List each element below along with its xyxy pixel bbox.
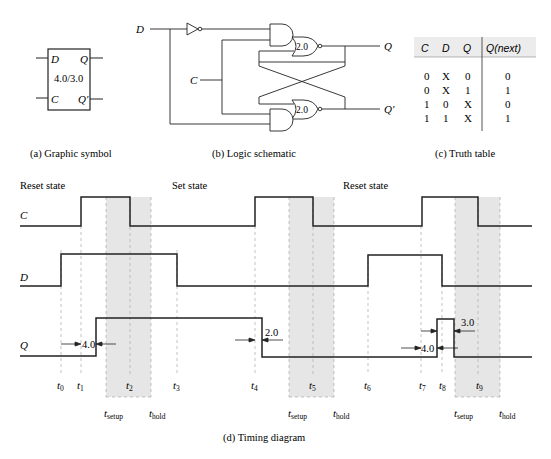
label-tsetup-3: tsetup — [454, 407, 473, 421]
svg-text:0: 0 — [443, 98, 449, 110]
marker-t3: t3 — [173, 379, 180, 393]
delay-label-4-0-first: 4.0 — [82, 339, 95, 350]
svg-text:0: 0 — [505, 98, 511, 110]
caption-b: (b) Logic schematic — [212, 148, 296, 160]
label-thold-1: thold — [149, 407, 166, 421]
marker-t8: t8 — [439, 379, 446, 393]
setup-hold-window-2 — [289, 197, 334, 397]
svg-text:0: 0 — [424, 70, 430, 82]
state-label-set: Set state — [172, 180, 208, 191]
tt-row: 1 0 X 0 — [424, 98, 511, 110]
svg-text:1: 1 — [465, 84, 471, 96]
caption-d: (d) Timing diagram — [223, 432, 305, 444]
schematic-input-c: C — [190, 74, 198, 86]
label-thold-2: thold — [333, 407, 350, 421]
setup-hold-window-1 — [106, 197, 151, 397]
tt-row: 1 1 X 1 — [424, 112, 511, 124]
logic-schematic — [150, 23, 380, 131]
graphic-symbol: D C Q Q′ 4.0/3.0 — [36, 49, 103, 110]
schematic-output-qbar: Q′ — [384, 103, 395, 115]
label-tsetup-1: tsetup — [104, 407, 123, 421]
svg-text:X: X — [464, 112, 472, 124]
delay-label-2-0: 2.0 — [265, 327, 278, 338]
label-tsetup-2: tsetup — [288, 407, 307, 421]
delay-label-4-0-second: 4.0 — [421, 343, 434, 354]
state-label-reset-1: Reset state — [20, 180, 66, 191]
marker-t1: t1 — [77, 379, 84, 393]
symbol-output-q: Q — [80, 53, 88, 65]
caption-a: (a) Graphic symbol — [30, 148, 112, 160]
tt-header-c: C — [421, 42, 429, 54]
marker-t7: t7 — [419, 379, 426, 393]
svg-text:1: 1 — [424, 98, 430, 110]
svg-text:1: 1 — [424, 112, 430, 124]
nor-bottom-delay: 2.0 — [296, 105, 308, 115]
marker-t6: t6 — [364, 379, 371, 393]
svg-text:X: X — [464, 98, 472, 110]
svg-text:1: 1 — [505, 84, 511, 96]
timing-diagram: 4.0 2.0 4.0 3.0 — [20, 197, 532, 397]
svg-text:0: 0 — [424, 84, 430, 96]
tt-row: 0 X 0 0 — [424, 70, 511, 82]
tt-header-q: Q — [463, 42, 471, 54]
truth-table: C D Q Q(next) 0 X 0 0 0 X 1 1 1 0 X 0 1 … — [414, 37, 536, 131]
svg-text:X: X — [442, 70, 450, 82]
svg-text:0: 0 — [465, 70, 471, 82]
schematic-input-d: D — [135, 23, 144, 35]
symbol-input-d: D — [50, 53, 59, 65]
figure-canvas: D C Q Q′ 4.0/3.0 (a) Graphic symbol — [0, 0, 551, 459]
setup-hold-labels: tsetup thold tsetup thold tsetup thold — [104, 407, 516, 421]
signal-label-d: D — [19, 271, 28, 283]
marker-t0: t0 — [57, 379, 64, 393]
svg-text:X: X — [442, 84, 450, 96]
delay-label-3-0: 3.0 — [461, 317, 474, 328]
and-gate-bottom — [270, 109, 293, 131]
signal-label-q: Q — [20, 339, 28, 351]
inverter-gate — [187, 23, 198, 35]
tt-header-qnext: Q(next) — [486, 42, 521, 54]
svg-text:1: 1 — [505, 112, 511, 124]
state-label-reset-2: Reset state — [343, 180, 389, 191]
caption-c: (c) Truth table — [435, 148, 495, 160]
tt-header-d: D — [442, 42, 450, 54]
symbol-output-qbar: Q′ — [78, 93, 89, 105]
signal-label-c: C — [20, 209, 28, 221]
setup-hold-window-3 — [455, 197, 500, 397]
svg-text:0: 0 — [505, 70, 511, 82]
and-gate-top — [270, 24, 293, 46]
schematic-output-q: Q — [384, 40, 392, 52]
svg-text:1: 1 — [443, 112, 449, 124]
label-thold-3: thold — [499, 407, 516, 421]
symbol-input-c: C — [51, 93, 59, 105]
symbol-delay-label: 4.0/3.0 — [54, 73, 83, 84]
tt-row: 0 X 1 1 — [424, 84, 511, 96]
marker-t4: t4 — [251, 379, 258, 393]
nor-top-delay: 2.0 — [296, 42, 308, 52]
